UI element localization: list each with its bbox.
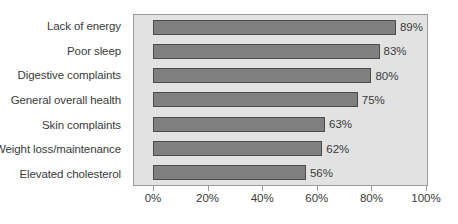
x-tick-mark <box>371 186 372 191</box>
bar-row: 89% <box>134 20 427 35</box>
bar <box>153 68 371 83</box>
category-label: Poor sleep <box>0 39 127 64</box>
x-tick-mark <box>208 186 209 191</box>
x-tick-mark <box>426 186 427 191</box>
category-axis: Lack of energyPoor sleepDigestive compla… <box>0 14 127 186</box>
x-tick-label: 20% <box>196 192 219 204</box>
horizontal-bar-chart: Lack of energyPoor sleepDigestive compla… <box>0 0 458 224</box>
x-tick-label: 60% <box>305 192 328 204</box>
plot-inner: 89%83%80%75%63%62%56% <box>134 15 427 185</box>
category-label: Elevated cholesterol <box>0 161 127 186</box>
bar-value-label: 83% <box>380 45 407 57</box>
category-label: Weight loss/maintenance <box>0 137 127 162</box>
bar-row: 62% <box>134 141 427 156</box>
bar-value-label: 75% <box>358 94 385 106</box>
bar-value-label: 80% <box>371 70 398 82</box>
x-tick-label: 0% <box>145 192 162 204</box>
bar-row: 80% <box>134 68 427 83</box>
x-tick-mark <box>317 186 318 191</box>
bar <box>153 141 322 156</box>
bar <box>153 20 396 35</box>
bar-value-label: 56% <box>306 167 333 179</box>
category-label: Skin complaints <box>0 112 127 137</box>
x-axis-tick-labels: 0%20%40%60%80%100% <box>133 192 428 210</box>
bar-row: 83% <box>134 44 427 59</box>
bar <box>153 92 358 107</box>
bar-row: 63% <box>134 117 427 132</box>
bar <box>153 117 325 132</box>
bars-layer: 89%83%80%75%63%62%56% <box>134 15 427 185</box>
category-label: Digestive complaints <box>0 63 127 88</box>
category-label: General overall health <box>0 88 127 113</box>
plot-area: 89%83%80%75%63%62%56% <box>133 14 428 186</box>
bar-row: 56% <box>134 165 427 180</box>
x-tick-mark <box>153 186 154 191</box>
bar-value-label: 89% <box>396 21 423 33</box>
x-tick-label: 40% <box>251 192 274 204</box>
bar <box>153 44 380 59</box>
bar-row: 75% <box>134 92 427 107</box>
category-label: Lack of energy <box>0 14 127 39</box>
bar-value-label: 63% <box>325 118 352 130</box>
x-tick-label: 100% <box>411 192 440 204</box>
bar-value-label: 62% <box>322 143 349 155</box>
x-tick-label: 80% <box>360 192 383 204</box>
x-tick-mark <box>262 186 263 191</box>
bar <box>153 165 306 180</box>
